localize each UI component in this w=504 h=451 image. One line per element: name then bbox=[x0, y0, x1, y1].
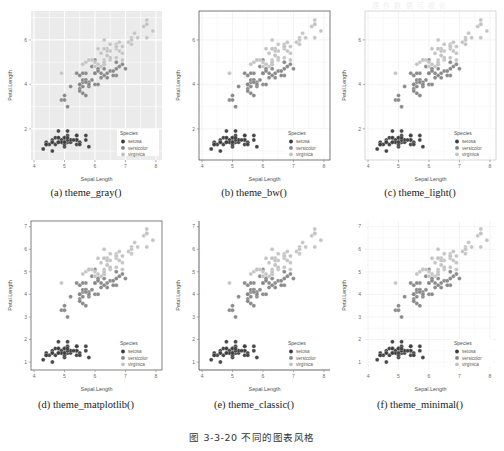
data-point bbox=[111, 283, 115, 287]
data-point bbox=[63, 308, 67, 312]
data-point bbox=[267, 261, 271, 265]
data-point bbox=[479, 231, 483, 235]
data-point bbox=[415, 272, 419, 276]
data-point bbox=[234, 315, 238, 319]
tick-label-y: 2 bbox=[358, 336, 361, 342]
tick-label-x: 5 bbox=[231, 163, 234, 169]
y-axis-label: Petal.Length bbox=[175, 70, 181, 100]
data-point bbox=[270, 60, 274, 64]
tick-label-y: 4 bbox=[192, 291, 195, 297]
data-point bbox=[120, 254, 124, 258]
data-point bbox=[397, 351, 401, 355]
data-point bbox=[246, 292, 250, 296]
data-point bbox=[102, 60, 106, 64]
data-point bbox=[145, 36, 149, 40]
plot-area-a: 24645678Sepal.LengthPetal.LengthSpeciess… bbox=[4, 4, 168, 186]
data-point bbox=[400, 347, 404, 351]
data-point bbox=[390, 351, 394, 355]
y-axis-label: Petal.Length bbox=[7, 280, 13, 310]
data-point bbox=[375, 358, 379, 362]
data-point bbox=[145, 227, 149, 231]
legend-swatch-virginica bbox=[455, 362, 459, 366]
data-point bbox=[433, 51, 437, 55]
legend-title: Species bbox=[454, 130, 472, 136]
legend-swatch-versicolor bbox=[455, 356, 459, 360]
tick-label-y: 5 bbox=[358, 269, 361, 275]
legend-swatch-setosa bbox=[289, 140, 293, 144]
data-point bbox=[439, 259, 443, 263]
data-point bbox=[145, 245, 149, 249]
data-point bbox=[282, 60, 286, 64]
data-point bbox=[384, 149, 388, 153]
legend: Speciessetosaversicolorvirginica bbox=[285, 339, 327, 367]
tick-label-y: 6 bbox=[24, 246, 27, 252]
data-point bbox=[130, 252, 134, 256]
data-point bbox=[304, 36, 308, 40]
data-point bbox=[231, 308, 235, 312]
data-point bbox=[457, 277, 461, 281]
legend-label-virginica: virginica bbox=[128, 362, 145, 367]
tick-label-y: 6 bbox=[358, 37, 361, 43]
tick-label-x: 7 bbox=[124, 163, 127, 169]
data-point bbox=[298, 38, 302, 42]
data-point bbox=[145, 18, 149, 22]
data-point bbox=[114, 56, 118, 60]
data-point bbox=[454, 261, 458, 265]
panel-caption-c: (c) theme_light() bbox=[338, 187, 502, 198]
data-point bbox=[145, 22, 149, 26]
tick-label-x: 8 bbox=[155, 373, 158, 379]
data-point bbox=[218, 351, 222, 355]
tick-label-x: 7 bbox=[292, 163, 295, 169]
tick-label-y: 1 bbox=[24, 359, 27, 365]
data-point bbox=[56, 140, 60, 144]
data-point bbox=[418, 138, 422, 142]
data-point bbox=[285, 40, 289, 44]
data-point bbox=[252, 344, 256, 348]
data-point bbox=[445, 73, 449, 77]
data-point bbox=[288, 51, 292, 55]
data-point bbox=[41, 358, 45, 362]
data-point bbox=[84, 290, 88, 294]
data-point bbox=[255, 145, 259, 149]
data-point bbox=[63, 351, 67, 355]
data-point bbox=[282, 45, 286, 49]
data-point bbox=[237, 85, 241, 89]
scatter-plot-a: 24645678Sepal.LengthPetal.LengthSpeciess… bbox=[4, 4, 168, 186]
data-point bbox=[412, 292, 416, 296]
legend-label-setosa: setosa bbox=[462, 139, 476, 144]
data-point bbox=[400, 129, 404, 133]
data-point bbox=[102, 270, 106, 274]
data-point bbox=[44, 353, 48, 357]
data-point bbox=[231, 140, 235, 144]
data-point bbox=[56, 351, 60, 355]
data-point bbox=[114, 277, 118, 281]
data-point bbox=[418, 304, 422, 308]
data-point bbox=[66, 129, 70, 133]
data-point bbox=[231, 304, 235, 308]
data-point bbox=[96, 292, 100, 296]
data-point bbox=[84, 349, 88, 353]
data-point bbox=[412, 89, 416, 93]
data-point bbox=[436, 247, 440, 251]
tick-label-y: 6 bbox=[24, 37, 27, 43]
data-point bbox=[479, 22, 483, 26]
data-point bbox=[433, 76, 437, 80]
data-point bbox=[412, 283, 416, 287]
data-point bbox=[282, 270, 286, 274]
data-point bbox=[298, 247, 302, 251]
data-point bbox=[298, 42, 302, 46]
data-point bbox=[93, 65, 97, 69]
tick-label-y: 5 bbox=[24, 269, 27, 275]
data-point bbox=[403, 85, 407, 89]
data-point bbox=[252, 304, 256, 308]
data-point bbox=[400, 340, 404, 344]
data-point bbox=[209, 358, 213, 362]
data-point bbox=[130, 42, 134, 46]
data-point bbox=[252, 290, 256, 294]
tick-label-x: 6 bbox=[262, 373, 265, 379]
data-point bbox=[111, 73, 115, 77]
data-point bbox=[448, 265, 452, 269]
tick-label-y: 4 bbox=[24, 291, 27, 297]
data-point bbox=[276, 252, 280, 256]
data-point bbox=[252, 94, 256, 98]
